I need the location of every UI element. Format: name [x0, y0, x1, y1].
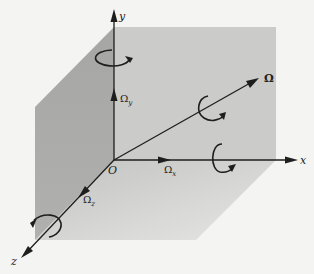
y-axis-arrowhead-icon — [111, 9, 118, 22]
x-axis-arrowhead-icon — [285, 157, 298, 164]
diagram-svg: y Ωy x Ωx Ω z Ωz O — [0, 0, 314, 274]
rotation-diagram: y Ωy x Ωx Ω z Ωz O — [0, 0, 314, 274]
z-axis-label: z — [10, 255, 17, 268]
omega-label: Ω — [264, 72, 274, 85]
origin-label: O — [108, 164, 117, 177]
x-axis-label: x — [300, 154, 307, 167]
back-plane — [114, 27, 276, 160]
y-axis-label: y — [118, 10, 126, 23]
